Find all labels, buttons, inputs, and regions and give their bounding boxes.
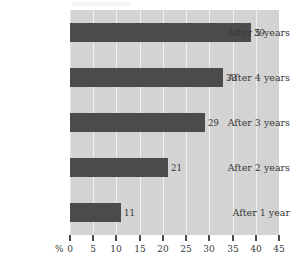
x-tick-30	[208, 235, 210, 241]
x-tick-20	[162, 235, 164, 241]
x-tick-25	[185, 235, 187, 241]
x-tick-label: 35	[227, 244, 238, 255]
bar	[70, 68, 223, 87]
category-label: After 1 year	[224, 207, 290, 218]
scan-artifact	[72, 2, 130, 6]
x-tick-label: 45	[273, 244, 284, 255]
x-tick-label: 10	[110, 244, 121, 255]
x-tick-15	[139, 235, 141, 241]
x-tick-label: 5	[90, 244, 96, 255]
x-tick-40	[255, 235, 257, 241]
x-tick-5	[92, 235, 94, 241]
x-tick-0	[69, 235, 71, 241]
x-tick-35	[232, 235, 234, 241]
bar	[70, 158, 168, 177]
bar-chart: After 1 yearAfter 2 yearsAfter 3 yearsAf…	[0, 0, 294, 264]
x-tick-label: 0	[67, 244, 73, 255]
data-label: 11	[124, 208, 135, 218]
x-axis: 051015202530354045	[70, 235, 279, 264]
x-tick-label: 40	[250, 244, 261, 255]
bar	[70, 203, 121, 222]
category-label: After 3 years	[224, 117, 290, 128]
data-label: 33	[226, 73, 237, 83]
x-tick-label: 15	[134, 244, 145, 255]
x-tick-45	[278, 235, 280, 241]
x-tick-10	[115, 235, 117, 241]
data-label: 29	[208, 118, 219, 128]
category-label: After 2 years	[224, 162, 290, 173]
bar	[70, 113, 205, 132]
x-tick-label: 20	[157, 244, 168, 255]
x-tick-label: 30	[203, 244, 214, 255]
data-label: 39	[254, 28, 265, 38]
x-axis-unit-label: %	[55, 244, 64, 255]
x-tick-label: 25	[180, 244, 191, 255]
data-label: 21	[171, 163, 182, 173]
